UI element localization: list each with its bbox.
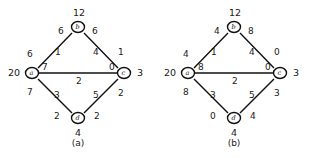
node-value-c: 3 [137,68,143,77]
edge-b-c-head-label: 0 [274,48,280,57]
edge-a-d-tail-label: 8 [183,88,189,97]
edge-d-c-tail-label: 4 [250,112,256,121]
edge-a-d-weight: 3 [210,91,216,100]
edge-a-c-weight: 2 [76,77,82,86]
figure-container: a b c d 20 12 3 4 6 1 6 6 4 1 7 2 0 7 3 … [0,0,312,158]
edge-a-d-tail-label: 7 [27,88,33,97]
edge-a-d-head-label: 2 [54,112,60,121]
edge-a-b-head-label: 6 [58,27,64,36]
edge-b-c-head-label: 1 [118,48,124,57]
node-value-d: 4 [231,128,237,137]
edge-b-c-weight: 4 [249,48,255,57]
node-label-b: b [232,24,236,31]
node-value-c: 3 [293,68,299,77]
clipped-text-row [0,151,312,158]
graph-panel-a: a b c d 20 12 3 4 6 1 6 6 4 1 7 2 0 7 3 … [0,0,156,158]
edge-b-c-weight: 4 [93,48,99,57]
node-label-a: a [186,70,190,77]
node-value-b: 12 [229,8,241,17]
edge-d-c [84,79,118,113]
edge-b-c-tail-label: 6 [92,27,98,36]
node-value-a: 20 [164,68,176,77]
node-label-c: c [278,70,282,77]
graph-panel-b: a b c d 20 12 3 4 4 1 4 8 4 0 8 2 0 8 3 … [156,0,312,158]
edge-a-d-weight: 3 [54,91,60,100]
node-label-d: d [232,115,236,122]
edge-d-c-tail-label: 2 [94,112,100,121]
edge-a-b-weight: 1 [211,48,217,57]
edge-a-c-weight: 2 [232,77,238,86]
edge-a-b-tail-label: 4 [183,50,189,59]
edge-a-c-head-label: 0 [265,63,271,72]
edge-d-c-weight: 5 [93,91,99,100]
edge-a-b-tail-label: 6 [27,50,33,59]
node-value-a: 20 [8,68,20,77]
panel-b-caption: (b) [156,138,312,148]
edge-d-c [240,79,274,113]
node-label-b: b [76,24,80,31]
node-label-a: a [30,70,34,77]
edge-a-c-tail-label: 7 [42,63,48,72]
node-value-d: 4 [75,128,81,137]
edge-d-c-weight: 5 [249,91,255,100]
edge-b-c-tail-label: 8 [248,27,254,36]
edge-a-b-head-label: 4 [214,27,220,36]
edge-a-c-head-label: 0 [109,63,115,72]
node-value-b: 12 [73,8,85,17]
edge-a-c-tail-label: 8 [198,63,204,72]
edge-d-c-head-label: 3 [274,89,280,98]
node-label-d: d [76,115,80,122]
edge-d-c-head-label: 2 [118,89,124,98]
panel-a-caption: (a) [0,138,156,148]
edge-a-b-weight: 1 [55,48,61,57]
node-label-c: c [122,70,126,77]
edge-a-d-head-label: 0 [210,112,216,121]
